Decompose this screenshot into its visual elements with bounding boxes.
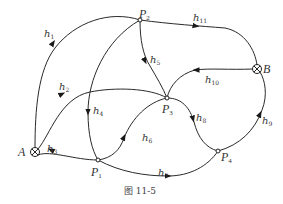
node-P4 bbox=[216, 149, 220, 153]
edge-label-h9: h9 bbox=[262, 116, 272, 127]
diagram-graphics bbox=[0, 0, 283, 204]
edge-label-h11: h11 bbox=[193, 13, 207, 24]
node-label-P3: P3 bbox=[162, 103, 173, 117]
edge-h8 bbox=[167, 98, 218, 151]
edge-label-h4: h4 bbox=[93, 106, 103, 117]
network-diagram: A B P1 P2 P3 P4 h1 h2 h3 h4 h5 h6 h7 h8 … bbox=[0, 0, 283, 204]
figure-caption: 图 11-5 bbox=[124, 184, 156, 197]
edge-h6 bbox=[98, 98, 167, 160]
node-label-B: B bbox=[263, 63, 270, 75]
edge-label-h6: h6 bbox=[142, 133, 152, 144]
edge-label-h5: h5 bbox=[150, 55, 160, 66]
arrow-h1-icon bbox=[51, 40, 55, 46]
node-label-P2: P2 bbox=[139, 8, 150, 22]
node-A bbox=[31, 148, 40, 157]
edge-label-h7: h7 bbox=[158, 168, 168, 179]
node-label-P4: P4 bbox=[221, 151, 232, 165]
edge-h9 bbox=[218, 72, 265, 151]
edge-label-h8: h8 bbox=[196, 113, 206, 124]
edge-label-h3: h3 bbox=[47, 144, 57, 155]
edge-label-h10: h10 bbox=[205, 75, 219, 86]
node-P1 bbox=[96, 158, 100, 162]
edge-label-h1: h1 bbox=[44, 29, 54, 40]
node-label-P1: P1 bbox=[91, 166, 102, 180]
edge-h4 bbox=[88, 20, 140, 160]
node-B bbox=[253, 65, 262, 74]
node-label-A: A bbox=[18, 146, 25, 158]
edge-label-h2: h2 bbox=[59, 82, 69, 93]
node-P3 bbox=[165, 96, 169, 100]
